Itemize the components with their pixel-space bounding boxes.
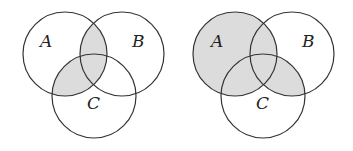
venn-left: A B C <box>23 12 164 138</box>
venn-right: A B C <box>193 12 334 138</box>
label-a: A <box>209 31 223 51</box>
label-c: C <box>256 93 269 113</box>
venn-diagrams: A B C A B C <box>0 0 353 151</box>
label-c: C <box>87 93 100 113</box>
label-b: B <box>301 31 315 51</box>
shaded-region-a-and-b-or-c <box>52 12 164 138</box>
label-b: B <box>131 31 145 51</box>
label-a: A <box>38 31 52 51</box>
